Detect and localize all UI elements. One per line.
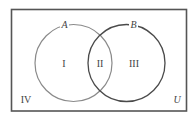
region-3-label: III	[129, 58, 139, 69]
set-a-label: A	[60, 19, 68, 30]
region-2-label: II	[97, 58, 104, 69]
universe-label: U	[173, 94, 181, 105]
venn-diagram: A B I II III IV U	[0, 0, 195, 119]
set-b-label: B	[130, 19, 136, 30]
region-1-label: I	[62, 58, 65, 69]
region-4-label: IV	[21, 94, 32, 105]
